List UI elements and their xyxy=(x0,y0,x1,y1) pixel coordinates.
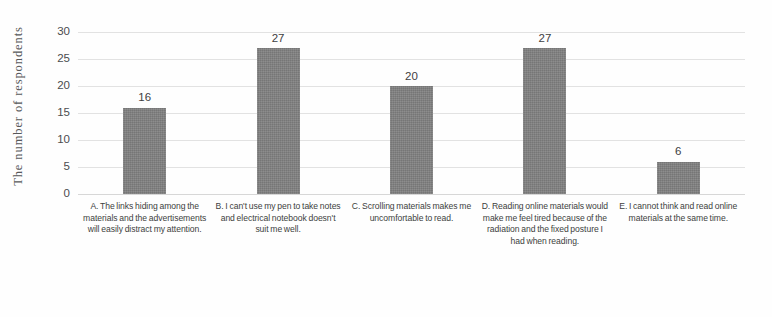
bar-group[interactable]: 6 xyxy=(657,32,700,194)
x-axis-label: A. The links hiding among the materials … xyxy=(81,201,209,236)
bar[interactable] xyxy=(390,86,433,194)
bar-value-label: 16 xyxy=(115,92,175,104)
bar-value-label: 27 xyxy=(515,33,575,45)
bar-value-label: 20 xyxy=(382,71,442,83)
y-axis-tick-0: 0 xyxy=(42,188,70,200)
bar[interactable] xyxy=(657,162,700,194)
plot-area: 162720276 xyxy=(78,32,745,194)
y-axis-title: The number of respondents xyxy=(11,1,33,211)
bar[interactable] xyxy=(523,48,566,194)
bar-group[interactable]: 27 xyxy=(257,32,300,194)
bar[interactable] xyxy=(257,48,300,194)
y-axis-tick-25: 25 xyxy=(42,53,70,65)
bar-value-label: 27 xyxy=(248,33,308,45)
bar-group[interactable]: 16 xyxy=(123,32,166,194)
bars: 162720276 xyxy=(78,32,745,194)
y-axis-tick-30: 30 xyxy=(42,26,70,38)
x-axis-label: D. Reading online materials would make m… xyxy=(481,201,609,247)
x-axis-label: E. I cannot think and read online materi… xyxy=(614,201,742,224)
y-axis-tick-labels: 051015202530 xyxy=(36,0,70,317)
gridline-0 xyxy=(78,194,745,195)
bar-group[interactable]: 20 xyxy=(390,32,433,194)
bar-value-label: 6 xyxy=(648,146,708,158)
y-axis-tick-20: 20 xyxy=(42,80,70,92)
y-axis-tick-10: 10 xyxy=(42,134,70,146)
y-axis-tick-15: 15 xyxy=(42,107,70,119)
bar-group[interactable]: 27 xyxy=(523,32,566,194)
x-axis-category-labels: A. The links hiding among the materials … xyxy=(78,201,745,311)
bar-chart: The number of respondents 051015202530 1… xyxy=(0,0,772,317)
x-axis-label: B. I can't use my pen to take notes and … xyxy=(214,201,342,236)
x-axis-label: C. Scrolling materials makes me uncomfor… xyxy=(348,201,476,224)
y-axis-tick-5: 5 xyxy=(42,161,70,173)
bar[interactable] xyxy=(123,108,166,194)
